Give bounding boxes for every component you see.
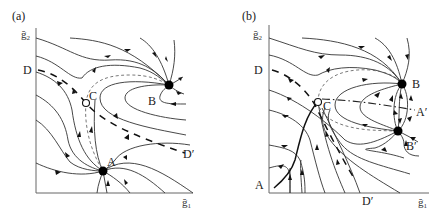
label-d: D	[23, 63, 32, 77]
trajectory	[269, 166, 290, 193]
arrow-icon	[336, 159, 340, 165]
arrow-icon	[315, 144, 319, 150]
arrow-icon	[362, 78, 368, 82]
trajectory	[375, 38, 402, 84]
trajectory	[335, 83, 402, 131]
arrow-icon	[381, 147, 387, 152]
panel-a-x-axis-label: ğ1	[182, 196, 192, 210]
arrow-icon	[399, 93, 403, 99]
arrow-icon	[104, 55, 111, 58]
arrow-icon	[407, 116, 412, 122]
arrow-icon	[123, 155, 127, 160]
label-b: B	[412, 77, 420, 91]
trajectory	[323, 108, 400, 193]
label-d-prime: D′	[183, 147, 195, 161]
arrow-icon	[77, 131, 81, 137]
separatrix	[86, 75, 169, 103]
stable-node-b-prime	[394, 127, 403, 136]
arrow-icon	[170, 102, 176, 106]
trajectory	[100, 82, 186, 135]
trajectory	[402, 38, 409, 84]
panel-b-axes	[269, 25, 429, 193]
trajectory	[103, 163, 193, 193]
arrow-icon	[113, 113, 118, 119]
label-c: C	[89, 89, 97, 103]
phase-portrait-figure: (a) ğ2 ğ1 D D′	[0, 0, 439, 220]
trajectory	[269, 145, 305, 193]
panel-a-y-axis-label: ğ2	[21, 28, 31, 42]
arrow-heads	[278, 46, 416, 180]
arrow-icon	[288, 78, 294, 83]
panel-a: (a) ğ2 ğ1 D D′	[12, 9, 195, 210]
stable-node-b	[398, 80, 407, 89]
panel-b: (b) ğ2 ğ1	[242, 9, 429, 210]
label-b-prime: B′	[406, 139, 417, 153]
label-d-prime: D′	[362, 194, 374, 208]
trajectory	[322, 108, 360, 193]
arrow-icon	[65, 152, 70, 158]
trajectory	[94, 100, 103, 171]
arrow-icon	[106, 180, 110, 186]
arrow-icon	[389, 95, 393, 102]
label-a-prime: A′	[416, 105, 428, 119]
trajectory	[140, 38, 169, 85]
arrow-icon	[326, 67, 330, 73]
stable-node-b	[165, 81, 174, 90]
trajectory	[36, 95, 103, 171]
arrow-icon	[178, 77, 182, 81]
label-b: B	[148, 94, 156, 108]
label-d: D	[254, 63, 263, 77]
panel-b-y-axis-label: ğ2	[253, 28, 263, 42]
arrow-icon	[288, 174, 292, 180]
arrow-icon	[124, 134, 129, 140]
arrow-icon	[165, 56, 168, 62]
trajectory	[302, 38, 402, 84]
label-c: C	[323, 99, 331, 113]
arrow-icon	[124, 179, 128, 185]
saddle-c	[315, 99, 322, 106]
panel-b-x-axis-label: ğ1	[418, 196, 428, 210]
arrow-icon	[387, 55, 392, 61]
label-a: A	[255, 178, 264, 192]
arrow-icon	[409, 95, 413, 101]
label-a: A	[107, 155, 116, 169]
arrow-icon	[318, 55, 325, 59]
arrow-icon	[89, 126, 93, 133]
trajectory	[36, 163, 103, 174]
arrow-icon	[57, 81, 63, 86]
trajectory	[103, 168, 165, 193]
arrow-icon	[278, 164, 284, 169]
arrow-icon	[92, 67, 96, 73]
panel-b-label: (b)	[242, 9, 256, 23]
panel-a-label: (a)	[12, 9, 25, 23]
trajectory	[169, 40, 175, 85]
arrow-icon	[287, 97, 292, 101]
